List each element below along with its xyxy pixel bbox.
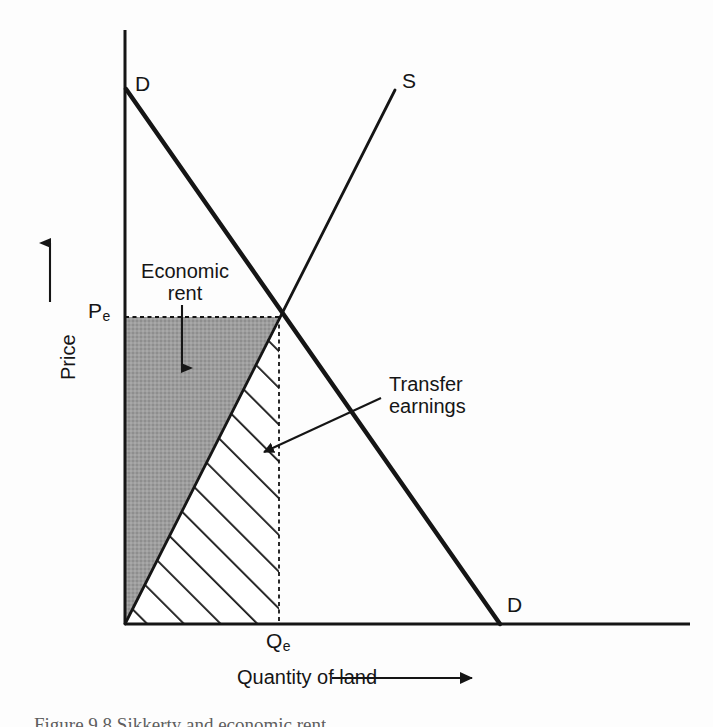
quantity-tick-subscript: e xyxy=(282,638,290,654)
price-tick-letter: P xyxy=(88,299,102,322)
price-axis-title: Price xyxy=(58,334,80,380)
transfer-earnings-annotation: Transfer earnings xyxy=(389,374,489,417)
transfer-earnings-line2: earnings xyxy=(389,396,489,418)
demand-curve-label-end: D xyxy=(507,594,522,617)
quantity-tick-letter: Q xyxy=(266,629,282,652)
economic-rent-annotation: Economic rent xyxy=(137,261,233,304)
price-tick-subscript: e xyxy=(102,308,110,324)
economic-rent-line2: rent xyxy=(137,283,233,305)
transfer-earnings-line1: Transfer xyxy=(389,374,489,396)
supply-demand-diagram xyxy=(0,0,713,727)
economic-rent-line1: Economic xyxy=(137,261,233,283)
figure-caption: Figure 9.8 Sikkerty and economic rent xyxy=(34,714,326,727)
equilibrium-quantity-label: Qe xyxy=(266,630,291,654)
supply-curve-label: S xyxy=(402,70,416,93)
quantity-axis-title: Quantity of land xyxy=(237,667,377,689)
figure-container: D S D Pe Qe Price Quantity of land Econo… xyxy=(0,0,713,727)
demand-curve-label-top: D xyxy=(135,73,150,96)
equilibrium-price-label: Pe xyxy=(88,300,110,324)
